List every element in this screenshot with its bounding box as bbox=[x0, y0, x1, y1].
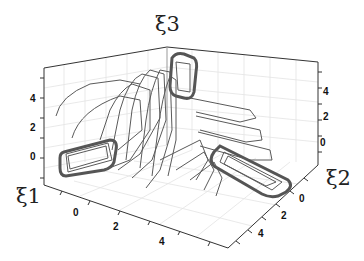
z-left-tick-4: 4 bbox=[30, 93, 36, 104]
z-right-tick-2: 2 bbox=[323, 111, 329, 122]
y-tick-4: 4 bbox=[258, 228, 264, 239]
z-left-tick-2: 2 bbox=[30, 122, 36, 133]
x-tick-4: 4 bbox=[159, 236, 165, 247]
x-tick-2: 2 bbox=[113, 221, 119, 232]
axis-title-xi1: ξ1 bbox=[16, 184, 41, 208]
z-right-tick-4: 4 bbox=[323, 86, 329, 97]
trajectory-series bbox=[56, 54, 291, 197]
axis-title-xi2: ξ2 bbox=[326, 166, 351, 190]
axis-title-xi3: ξ3 bbox=[155, 12, 180, 36]
3d-plot bbox=[0, 0, 364, 261]
y-tick-2: 2 bbox=[281, 210, 287, 221]
z-right-tick-0: 0 bbox=[320, 137, 326, 148]
x-tick-0: 0 bbox=[73, 207, 79, 218]
y-tick-0: 0 bbox=[299, 193, 305, 204]
z-left-tick-0: 0 bbox=[30, 151, 36, 162]
grid-lines bbox=[44, 49, 318, 237]
